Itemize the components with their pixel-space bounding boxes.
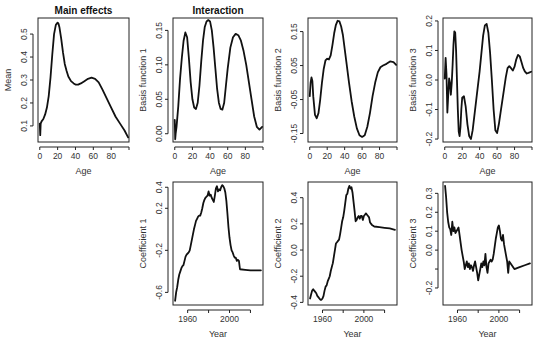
y-tick-label: 0.4: [154, 181, 164, 193]
x-tick-label: 1960: [313, 314, 332, 324]
x-tick-label: 20: [457, 151, 467, 161]
y-tick-label: 0.0: [424, 74, 434, 86]
x-tick-label: 0: [172, 151, 177, 161]
x-tick-label: 80: [510, 151, 520, 161]
x-axis-title: Age: [75, 166, 91, 176]
x-axis-title: Age: [344, 166, 360, 176]
plot-frame: [173, 182, 263, 305]
x-tick-label: 80: [241, 151, 251, 161]
y-tick-label: -0.4: [289, 295, 299, 310]
panel-coefficient-1: 19602000-0.6-0.20.20.4YearCoefficient 1: [138, 181, 263, 339]
series-line: [40, 23, 128, 138]
y-tick-label: 0.0: [424, 244, 434, 256]
x-axis-title: Year: [478, 329, 496, 339]
y-tick-label: -0.2: [289, 269, 299, 284]
plot-frame: [443, 182, 532, 305]
x-tick-label: 80: [375, 151, 385, 161]
x-tick-label: 60: [223, 151, 233, 161]
x-tick-label: 20: [322, 151, 332, 161]
panel-main-effects-mean: 0204060800.10.20.30.40.5AgeMeanMain effe…: [3, 5, 129, 176]
y-axis-title: Mean: [3, 69, 13, 92]
y-tick-label: 0.0: [289, 244, 299, 256]
x-axis: 19602000: [178, 310, 250, 324]
y-tick-label: -0.2: [424, 131, 434, 146]
y-axis: 0.000.050.100.15: [154, 22, 168, 142]
panel-basis-function-1: 0204060800.000.050.100.15AgeBasis functi…: [138, 5, 263, 176]
x-tick-label: 2000: [354, 314, 373, 324]
y-tick-label: 0.5: [19, 28, 29, 40]
y-tick-label: 0.15: [289, 23, 299, 40]
x-tick-label: 60: [492, 151, 502, 161]
y-tick-label: 0.1: [424, 225, 434, 237]
y-tick-label: 0.10: [154, 56, 164, 73]
y-tick-label: 0.4: [289, 192, 299, 204]
y-tick-label: 0.4: [19, 51, 29, 63]
y-axis-title: Coefficient 1: [138, 219, 148, 269]
y-axis-title: Coefficient 3: [408, 219, 418, 269]
y-tick-label: 0.2: [289, 218, 299, 230]
y-tick-label: 0.1: [19, 120, 29, 132]
y-tick-label: -0.2: [424, 280, 434, 295]
y-tick-label: 0.05: [154, 91, 164, 108]
y-tick-label: 0.05: [289, 57, 299, 74]
y-tick-label: 0.15: [154, 22, 164, 39]
x-axis: 020406080: [172, 147, 263, 161]
x-tick-label: 2000: [220, 314, 239, 324]
panel-title: Main effects: [55, 5, 113, 16]
x-tick-label: 0: [442, 151, 447, 161]
x-tick-label: 80: [106, 151, 116, 161]
x-tick-label: 0: [37, 151, 42, 161]
x-tick-label: 40: [475, 151, 485, 161]
plot-frame: [308, 18, 397, 142]
y-tick-label: 0.2: [154, 202, 164, 214]
x-tick-label: 2000: [489, 314, 508, 324]
panel-coefficient-2: 19602000-0.4-0.20.00.20.4YearCoefficient…: [273, 182, 397, 339]
y-axis: -0.4-0.20.00.20.4: [289, 192, 303, 310]
y-axis: -0.15-0.050.050.15: [289, 23, 303, 143]
y-tick-label: 0.2: [424, 206, 434, 218]
y-tick-label: 0.2: [424, 15, 434, 27]
y-tick-label: 0.1: [424, 44, 434, 56]
panel-coefficient-3: 19602000-0.20.00.10.20.3YearCoefficient …: [408, 182, 532, 339]
panel-title: Interaction: [192, 5, 243, 16]
x-tick-label: 0: [307, 151, 312, 161]
y-tick-label: 0.2: [19, 97, 29, 109]
y-axis-title: Basis function 3: [408, 48, 418, 112]
series-line: [310, 186, 395, 300]
y-axis-title: Coefficient 2: [273, 219, 283, 269]
y-tick-label: -0.2: [154, 243, 164, 258]
x-tick-label: 1960: [178, 314, 197, 324]
x-axis-title: Age: [210, 166, 226, 176]
x-tick-label: 20: [53, 151, 63, 161]
x-tick-label: 60: [357, 151, 367, 161]
y-tick-label: -0.15: [289, 124, 299, 144]
series-line: [175, 20, 262, 139]
figure: 0204060800.10.20.30.40.5AgeMeanMain effe…: [0, 0, 546, 350]
y-tick-label: 0.3: [424, 187, 434, 199]
y-tick-label: -0.05: [289, 90, 299, 110]
series-line: [310, 21, 396, 137]
plot-frame: [38, 18, 129, 142]
y-tick-label: 0.00: [154, 125, 164, 142]
y-axis: -0.2-0.10.00.10.2: [424, 15, 438, 147]
x-axis: 19602000: [313, 310, 385, 324]
x-axis: 020406080: [442, 147, 532, 161]
x-axis: 19602000: [448, 310, 520, 324]
panel-basis-function-2: 020406080-0.15-0.050.050.15AgeBasis func…: [273, 18, 397, 176]
y-axis-title: Basis function 2: [273, 48, 283, 112]
y-axis-title: Basis function 1: [138, 48, 148, 112]
x-tick-label: 1960: [448, 314, 467, 324]
series-line: [445, 24, 531, 139]
panel-basis-function-3: 020406080-0.2-0.10.00.10.2AgeBasis funct…: [408, 15, 532, 176]
x-axis-title: Year: [343, 329, 361, 339]
x-axis: 020406080: [307, 147, 397, 161]
x-tick-label: 40: [340, 151, 350, 161]
y-tick-label: 0.3: [19, 74, 29, 86]
x-axis-title: Age: [479, 166, 495, 176]
x-tick-label: 40: [71, 151, 81, 161]
y-axis: -0.20.00.10.20.3: [424, 187, 438, 295]
x-axis-title: Year: [209, 329, 227, 339]
y-axis: -0.6-0.20.20.4: [154, 181, 168, 300]
y-tick-label: -0.1: [424, 102, 434, 117]
series-line: [445, 186, 530, 281]
